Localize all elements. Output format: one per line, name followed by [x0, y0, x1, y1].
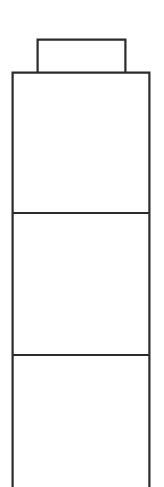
diagram-canvas [0, 0, 164, 487]
panel-middle [13, 214, 149, 355]
top-nub [38, 40, 125, 73]
panel-top [13, 73, 149, 213]
panel-bottom [13, 356, 149, 487]
